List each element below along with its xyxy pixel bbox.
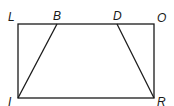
- label-L: L: [8, 10, 15, 24]
- label-D: D: [113, 9, 122, 23]
- label-I: I: [8, 95, 12, 106]
- label-O: O: [157, 11, 166, 25]
- label-B: B: [53, 9, 61, 23]
- label-R: R: [157, 95, 166, 106]
- geometry-diagram: L B D O I R: [0, 0, 174, 106]
- segment-DR: [117, 24, 154, 98]
- rectangle-LORI: [18, 24, 154, 98]
- segment-IB: [18, 24, 57, 98]
